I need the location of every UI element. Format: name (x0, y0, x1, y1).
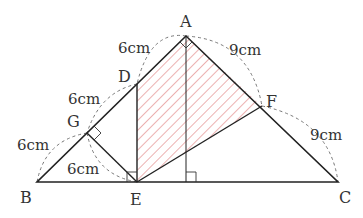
measure-gb: 6cm (17, 136, 49, 154)
measure-fc: 9cm (310, 126, 342, 144)
point-label-c: C (339, 188, 351, 207)
measure-dg: 6cm (68, 90, 100, 108)
point-label-e: E (130, 190, 142, 209)
point-label-g: G (67, 112, 80, 131)
measure-ad: 6cm (118, 39, 150, 57)
point-label-d: D (118, 67, 131, 86)
measure-af: 9cm (229, 41, 261, 59)
point-label-b: B (20, 188, 32, 207)
geometry-figure: A B C D E F G 6cm 6cm 6cm 6cm 9cm 9cm (0, 0, 363, 218)
point-label-a: A (179, 12, 192, 31)
measure-ge: 6cm (67, 160, 99, 178)
point-label-f: F (266, 92, 277, 111)
